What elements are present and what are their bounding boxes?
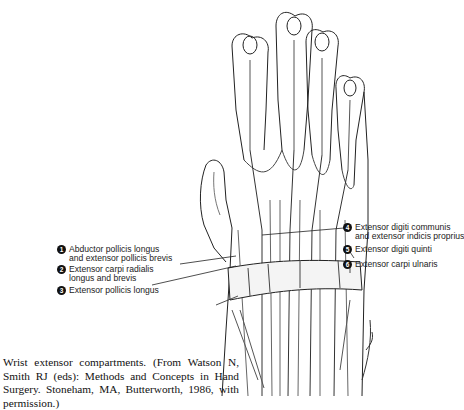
number-badge: 5 — [343, 245, 352, 254]
label-compartment-1: 1 Abductor pollicis longus and extensor … — [57, 245, 172, 264]
label-line: longus and brevis — [69, 274, 154, 283]
label-compartment-6: 6 Extensor carpi ulnaris — [343, 260, 438, 269]
label-line: Extensor digiti quinti — [355, 245, 432, 254]
number-badge: 6 — [343, 260, 352, 269]
label-compartment-2: 2 Extensor carpi radialis longus and bre… — [57, 265, 154, 284]
label-line: and extensor indicis proprius — [355, 232, 464, 241]
number-badge: 2 — [57, 265, 66, 274]
label-line: Extensor pollicis longus — [69, 286, 159, 295]
number-badge: 4 — [343, 223, 352, 232]
label-compartment-5: 5 Extensor digiti quinti — [343, 245, 432, 254]
figure-caption: Wrist extensor compartments. (From Watso… — [3, 356, 239, 410]
label-line: and extensor pollicis brevis — [69, 254, 172, 263]
number-badge: 3 — [57, 286, 66, 295]
label-compartment-4: 4 Extensor digiti communis and extensor … — [343, 223, 464, 242]
label-line: Extensor carpi ulnaris — [355, 260, 438, 269]
number-badge: 1 — [57, 245, 66, 254]
label-compartment-3: 3 Extensor pollicis longus — [57, 286, 159, 295]
